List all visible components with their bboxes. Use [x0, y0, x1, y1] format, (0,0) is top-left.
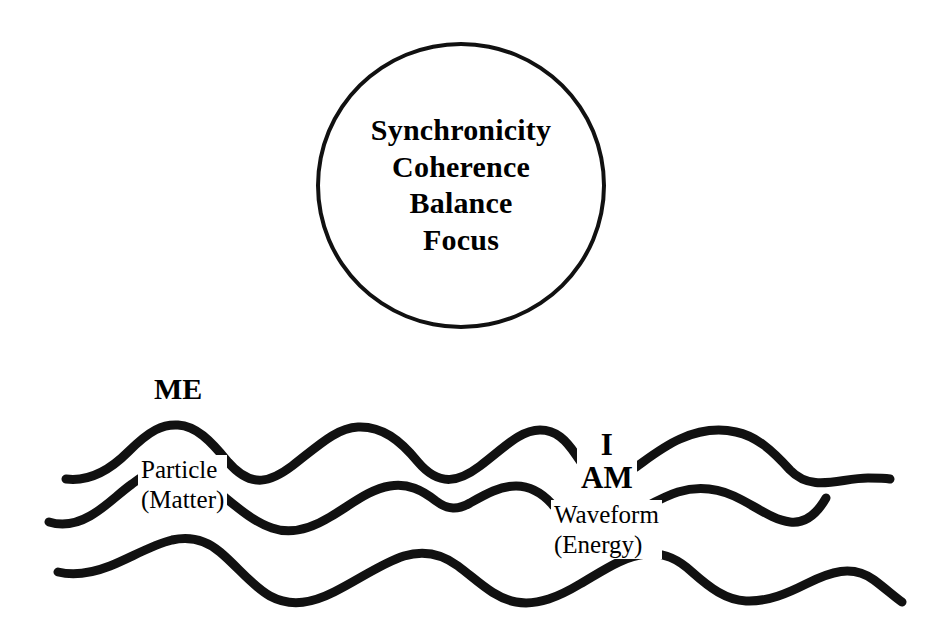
label-waveform-energy: Waveform (Energy) [551, 500, 662, 559]
label-particle-line1: Particle [141, 455, 224, 485]
circle-line-focus: Focus [316, 222, 606, 259]
label-particle-line2: (Matter) [141, 485, 224, 515]
label-am: AM [581, 461, 633, 494]
circle-line-synchronicity: Synchronicity [316, 112, 606, 149]
circle-text-block: Synchronicity Coherence Balance Focus [316, 112, 606, 258]
label-waveform-line2: (Energy) [554, 530, 659, 560]
wave-middle-segment-2 [222, 485, 566, 531]
label-particle-matter: Particle (Matter) [138, 455, 227, 514]
label-waveform-line1: Waveform [554, 500, 659, 530]
wave-bottom-segment-1 [58, 539, 902, 603]
wave-middle-segment-1 [49, 471, 152, 524]
wave-bottom [58, 539, 902, 603]
wave-top-segment-2 [636, 430, 890, 483]
circle-line-coherence: Coherence [316, 149, 606, 186]
state-circle: Synchronicity Coherence Balance Focus [316, 42, 606, 329]
diagram-canvas: Synchronicity Coherence Balance Focus ME… [0, 0, 949, 637]
label-i-am: I AM [577, 428, 637, 495]
label-i: I [581, 428, 633, 461]
label-me: ME [150, 372, 206, 406]
circle-line-balance: Balance [316, 185, 606, 222]
